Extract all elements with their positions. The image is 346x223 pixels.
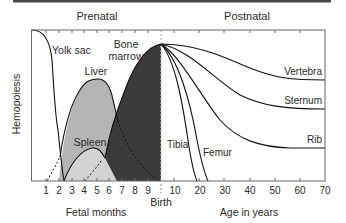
spleen-label: Spleen: [74, 136, 107, 148]
yolk-sac-label: Yolk sac: [52, 44, 91, 56]
postnatal-header: Postnatal: [224, 10, 270, 22]
age-years-label: Age in years: [220, 206, 278, 218]
bone-label: Bone: [114, 38, 139, 50]
y-axis-label: Hemopoiesis: [10, 74, 22, 135]
svg-text:9: 9: [145, 185, 151, 196]
svg-text:3: 3: [69, 185, 75, 196]
femur-line: [161, 44, 208, 181]
svg-text:1: 1: [43, 185, 49, 196]
sternum-label: Sternum: [284, 95, 322, 106]
hemopoiesis-chart: Prenatal Postnatal Hemopoiesis: [0, 0, 346, 223]
x-tick-labels: 1 2 3 4 5 6 7 8 9 10 20 30 40 50 60 70: [43, 185, 331, 196]
top-rule: [13, 0, 331, 3]
svg-text:7: 7: [119, 185, 125, 196]
femur-label: Femur: [203, 147, 233, 158]
svg-text:4: 4: [81, 185, 87, 196]
svg-text:8: 8: [132, 185, 138, 196]
svg-text:5: 5: [94, 185, 100, 196]
liver-label: Liver: [85, 65, 108, 77]
liver-dashed-start: [47, 157, 60, 181]
svg-text:6: 6: [106, 185, 112, 196]
vertebra-label: Vertebra: [284, 66, 322, 77]
svg-text:40: 40: [244, 185, 256, 196]
tibia-label: Tibia: [167, 139, 189, 150]
svg-text:70: 70: [319, 185, 331, 196]
svg-text:20: 20: [194, 185, 206, 196]
svg-text:2: 2: [56, 185, 62, 196]
svg-text:60: 60: [294, 185, 306, 196]
marrow-label: marrow: [108, 50, 143, 62]
svg-text:50: 50: [269, 185, 281, 196]
prenatal-header: Prenatal: [77, 10, 118, 22]
rib-label: Rib: [307, 134, 322, 145]
fetal-months-label: Fetal months: [66, 206, 127, 218]
svg-text:10: 10: [169, 185, 181, 196]
svg-text:30: 30: [219, 185, 231, 196]
birth-label: Birth: [150, 196, 172, 208]
